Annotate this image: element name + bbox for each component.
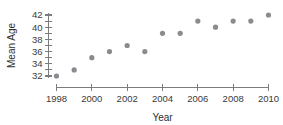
x-axis-tick-label: 2008 xyxy=(223,93,244,104)
y-axis-tick-label: 32 xyxy=(32,70,43,81)
data-point xyxy=(72,67,77,72)
data-point xyxy=(89,55,94,60)
y-axis-tick-label: 40 xyxy=(32,22,43,33)
y-axis-title: Mean Age xyxy=(6,23,17,68)
scatter-chart: 3234363840421998200020022004200620082010… xyxy=(0,0,283,125)
x-axis-tick-label: 2010 xyxy=(258,93,279,104)
x-axis-tick-label: 2004 xyxy=(152,93,173,104)
y-axis-tick-label: 38 xyxy=(32,34,43,45)
data-point xyxy=(107,49,112,54)
data-point xyxy=(231,19,236,24)
y-axis-tick-label: 42 xyxy=(32,9,43,20)
x-axis-tick-label: 2000 xyxy=(81,93,102,104)
data-point xyxy=(178,31,183,36)
x-axis-tick-label: 2006 xyxy=(187,93,208,104)
y-axis-tick-label: 36 xyxy=(32,46,43,57)
data-point xyxy=(54,73,59,78)
x-axis-title: Year xyxy=(152,112,173,123)
data-point xyxy=(125,43,130,48)
data-point xyxy=(248,19,253,24)
data-point xyxy=(266,12,271,17)
data-point xyxy=(142,49,147,54)
x-axis-tick-label: 1998 xyxy=(46,93,67,104)
x-axis-tick-label: 2002 xyxy=(117,93,138,104)
data-point xyxy=(195,19,200,24)
chart-canvas: 3234363840421998200020022004200620082010… xyxy=(0,0,283,125)
data-point xyxy=(213,25,218,30)
y-axis-tick-label: 34 xyxy=(32,58,43,69)
data-point xyxy=(160,31,165,36)
